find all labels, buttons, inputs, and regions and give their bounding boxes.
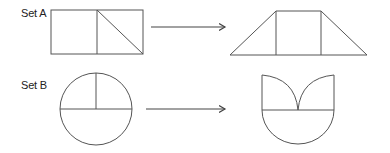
- set-a-source-shape: [51, 10, 143, 54]
- set-b-source-shape: [60, 73, 132, 145]
- set-b-target-shape: [262, 75, 334, 144]
- diagram-canvas: [0, 0, 390, 153]
- set-a-target-shape: [230, 11, 367, 55]
